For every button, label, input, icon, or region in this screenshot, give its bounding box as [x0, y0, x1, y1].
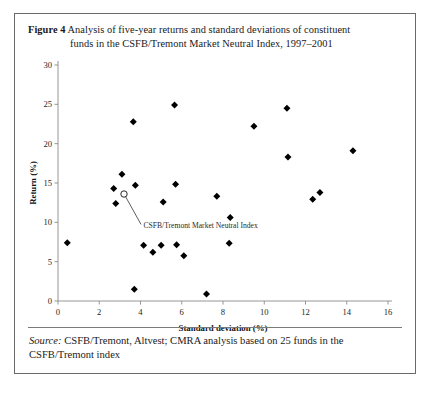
data-point[interactable] [160, 198, 167, 205]
data-point[interactable] [171, 102, 178, 109]
source-line-1: CSFB/Tremont, Altvest; CMRA analysis bas… [62, 335, 344, 346]
source-line-2: CSFB/Tremont index [29, 349, 120, 360]
y-tick-label: 20 [43, 139, 52, 149]
data-point[interactable] [250, 123, 257, 130]
y-axis-title: Return (%) [28, 161, 38, 205]
y-tick-label: 5 [48, 257, 52, 267]
data-point[interactable] [172, 181, 179, 188]
chart-svg: 0246810121416051015202530Standard deviat… [15, 14, 417, 375]
data-point[interactable] [173, 241, 180, 248]
data-point[interactable] [180, 252, 187, 259]
data-point[interactable] [316, 189, 323, 196]
data-point[interactable] [158, 242, 165, 249]
data-point[interactable] [349, 147, 356, 154]
data-point[interactable] [284, 154, 291, 161]
x-tick-label: 16 [384, 307, 393, 317]
x-tick-label: 12 [301, 307, 310, 317]
data-point[interactable] [118, 171, 125, 178]
x-tick-label: 14 [342, 307, 351, 317]
data-point[interactable] [226, 240, 233, 247]
x-tick-label: 2 [97, 307, 101, 317]
source-label: Source: [29, 335, 62, 346]
x-tick-label: 6 [180, 307, 185, 317]
data-point[interactable] [112, 200, 119, 207]
y-tick-label: 10 [43, 217, 52, 227]
x-tick-label: 10 [260, 307, 269, 317]
y-tick-label: 15 [43, 178, 52, 188]
annotation-leader-line [126, 197, 142, 225]
data-points-group [64, 102, 357, 298]
data-point[interactable] [227, 214, 234, 221]
scatter-chart: 0246810121416051015202530Standard deviat… [15, 14, 417, 375]
data-point[interactable] [149, 249, 156, 256]
data-point[interactable] [283, 105, 290, 112]
annotation-group: CSFB/Tremont Market Neutral Index [126, 197, 258, 231]
annotation-label: CSFB/Tremont Market Neutral Index [144, 221, 258, 230]
source-note: Source: CSFB/Tremont, Altvest; CMRA anal… [29, 334, 401, 362]
data-point[interactable] [110, 185, 117, 192]
data-point[interactable] [131, 286, 138, 293]
data-point[interactable] [130, 118, 137, 125]
axes-group: 0246810121416051015202530Standard deviat… [28, 60, 393, 333]
x-tick-label: 8 [221, 307, 225, 317]
x-tick-label: 4 [138, 307, 143, 317]
source-divider [28, 327, 402, 328]
data-point[interactable] [140, 242, 147, 249]
y-tick-label: 30 [43, 60, 52, 70]
data-point[interactable] [203, 290, 210, 297]
data-point[interactable] [213, 193, 220, 200]
data-point[interactable] [132, 182, 139, 189]
data-point[interactable] [64, 239, 71, 246]
x-tick-label: 0 [56, 307, 60, 317]
y-tick-label: 25 [43, 99, 52, 109]
x-axis-title: Standard deviation (%) [179, 323, 268, 333]
figure-container: Figure 4 Analysis of five-year returns a… [14, 13, 416, 374]
y-tick-label: 0 [48, 296, 52, 306]
data-point[interactable] [309, 196, 316, 203]
index-marker[interactable] [121, 191, 127, 197]
